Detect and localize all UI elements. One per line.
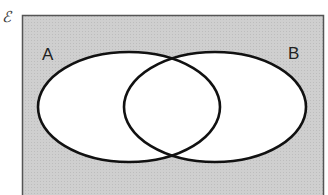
set-b-label: B bbox=[288, 44, 299, 64]
venn-diagram bbox=[0, 0, 328, 195]
universal-set-symbol: ℰ bbox=[2, 8, 11, 26]
set-a-label: A bbox=[42, 45, 53, 65]
